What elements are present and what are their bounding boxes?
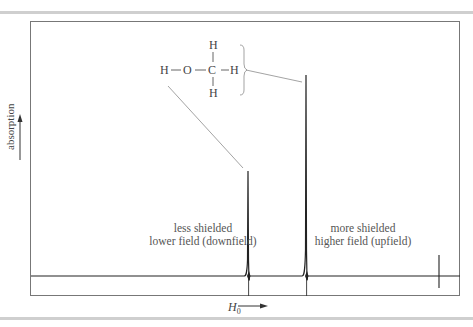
ch3-annotation-line1: more shielded: [308, 222, 418, 235]
molecule-bonds: [171, 52, 229, 86]
x-axis-label-main: H: [228, 300, 237, 314]
atom-h-left: H: [160, 63, 169, 78]
ch3-annotation-line2: higher field (upfield): [308, 235, 418, 248]
x-axis-label-sub: 0: [237, 307, 241, 316]
ch3-brace: [240, 45, 247, 95]
y-axis-label: absorption: [4, 104, 16, 150]
oh-annotation-line1: less shielded: [148, 222, 258, 235]
bottom-rule: [0, 317, 473, 320]
oh-annotation-line2: lower field (downfield): [148, 235, 258, 248]
atom-h-bottom: H: [209, 86, 218, 101]
x-axis-label: H0: [228, 300, 241, 316]
atom-h-top: H: [209, 38, 218, 53]
atom-o: O: [183, 63, 192, 78]
atom-c: C: [208, 63, 216, 78]
y-axis-arrow-icon: [18, 114, 23, 160]
ch3-peak-foot: [305, 271, 309, 281]
atom-h-right: H: [230, 63, 239, 78]
oh-annotation: less shielded lower field (downfield): [148, 222, 258, 248]
ch3-leader-line: [246, 70, 302, 82]
oh-peak-foot: [247, 271, 251, 281]
x-axis-arrow-icon: [238, 304, 268, 309]
nmr-spectrum: [0, 0, 473, 327]
oh-leader-line: [168, 86, 243, 168]
spectrum-trace: [31, 75, 460, 280]
ch3-annotation: more shielded higher field (upfield): [308, 222, 418, 248]
